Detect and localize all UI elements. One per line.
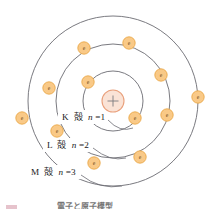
electron: e bbox=[78, 42, 90, 54]
atom-diagram-svg: e e e e e e e bbox=[0, 0, 214, 209]
electron: e bbox=[123, 37, 135, 49]
electron: e bbox=[155, 69, 167, 81]
svg-text:K 殻 n: K 殻 n =1 bbox=[62, 111, 106, 122]
shell-label-k-letter: K bbox=[62, 112, 69, 122]
shell-label-k-kanji: 殻 bbox=[74, 111, 83, 122]
electron: e bbox=[134, 151, 146, 163]
leader-line-m bbox=[81, 175, 122, 187]
figure-caption-strip: 電子と原子模型 bbox=[0, 200, 214, 209]
caption-text: 電子と原子模型 bbox=[57, 202, 113, 209]
shell-label-l-kanji: 殻 bbox=[57, 139, 66, 150]
electron: e bbox=[16, 112, 28, 124]
electron: e bbox=[43, 82, 55, 94]
leader-line-k bbox=[108, 120, 133, 129]
shell-label-m-kanji: 殻 bbox=[44, 166, 53, 177]
electron: e bbox=[129, 112, 141, 124]
shell-label-l-letter: L bbox=[47, 140, 53, 150]
shell-label-m-n: n bbox=[59, 167, 64, 177]
shell-label-l-n: n bbox=[72, 140, 77, 150]
electron: e bbox=[161, 109, 173, 121]
shell-label-m-value: =3 bbox=[66, 167, 76, 177]
caption-swatch bbox=[6, 205, 17, 209]
nucleus-group bbox=[102, 90, 124, 112]
svg-text:L 殻 n: L 殻 n =2 bbox=[47, 139, 89, 150]
shell-label-m: M 殻 n =3 bbox=[31, 166, 76, 177]
electron: e bbox=[51, 125, 63, 137]
figure-caption: 電子と原子模型 bbox=[6, 200, 113, 209]
electron: e bbox=[88, 157, 100, 169]
shell-label-k-value: =1 bbox=[95, 112, 105, 122]
electron: e bbox=[192, 91, 204, 103]
atomic-model-figure: e e e e e e e bbox=[0, 0, 214, 209]
electron: e bbox=[82, 76, 94, 88]
shell-label-k: K 殻 n =1 bbox=[62, 111, 106, 122]
shell-label-l-value: =2 bbox=[79, 140, 89, 150]
shell-label-m-letter: M bbox=[31, 167, 39, 177]
shell-label-l: L 殻 n =2 bbox=[47, 139, 89, 150]
svg-text:M 殻 n: M 殻 n =3 bbox=[31, 166, 76, 177]
shell-label-k-n: n bbox=[88, 112, 93, 122]
